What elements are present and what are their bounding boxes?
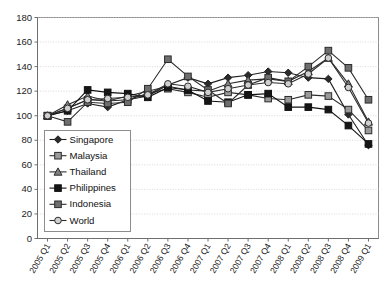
chart-legend: SingaporeMalaysiaThailandPhilippinesIndo… bbox=[45, 131, 131, 232]
data-point bbox=[305, 104, 312, 111]
data-point bbox=[305, 71, 312, 78]
data-point bbox=[365, 96, 372, 103]
data-point bbox=[265, 90, 272, 97]
data-point bbox=[325, 106, 332, 113]
y-tick-label: 20 bbox=[21, 208, 32, 219]
data-point bbox=[325, 47, 332, 54]
data-point bbox=[124, 94, 131, 101]
y-tick-label: 80 bbox=[21, 134, 32, 145]
y-tick-label: 0 bbox=[27, 233, 32, 244]
chart-container: 020406080100120140160180 2005 Q12005 Q22… bbox=[0, 0, 387, 283]
data-point bbox=[104, 95, 111, 102]
data-point bbox=[165, 56, 172, 63]
y-tick-label: 160 bbox=[16, 36, 32, 47]
legend-item-thailand[interactable]: Thailand bbox=[50, 166, 107, 177]
data-point bbox=[84, 87, 91, 94]
data-point bbox=[225, 85, 232, 92]
data-point bbox=[104, 89, 111, 96]
data-point bbox=[365, 141, 372, 148]
data-point bbox=[325, 55, 332, 62]
y-tick-label: 40 bbox=[21, 183, 32, 194]
data-point bbox=[285, 104, 292, 111]
line-chart: 020406080100120140160180 2005 Q12005 Q22… bbox=[0, 0, 387, 283]
y-tick-label: 180 bbox=[16, 12, 32, 23]
data-point bbox=[185, 73, 192, 80]
data-point bbox=[265, 79, 272, 86]
data-point bbox=[245, 82, 252, 89]
legend-item-label: Philippines bbox=[70, 182, 117, 193]
data-point bbox=[84, 96, 91, 103]
y-tick-label: 120 bbox=[16, 85, 32, 96]
data-point bbox=[225, 100, 232, 107]
y-axis-ticks: 020406080100120140160180 bbox=[16, 12, 37, 244]
data-point bbox=[285, 96, 292, 103]
data-point bbox=[245, 92, 252, 99]
data-point bbox=[365, 120, 372, 127]
x-axis-ticks: 2005 Q12005 Q22005 Q32005 Q42006 Q12006 … bbox=[27, 239, 373, 276]
data-point bbox=[165, 81, 172, 88]
data-point bbox=[285, 81, 292, 88]
legend-item-label: Singapore bbox=[70, 134, 114, 145]
data-point bbox=[44, 112, 51, 119]
data-point bbox=[64, 105, 71, 112]
data-point bbox=[64, 119, 71, 126]
data-point bbox=[345, 122, 352, 129]
legend-marker-square-icon bbox=[55, 201, 62, 208]
data-point bbox=[345, 106, 352, 113]
data-point bbox=[145, 92, 152, 99]
y-tick-label: 60 bbox=[21, 159, 32, 170]
data-point bbox=[345, 84, 352, 91]
legend-item-label: Thailand bbox=[70, 166, 107, 177]
data-point bbox=[305, 92, 312, 99]
data-point bbox=[325, 93, 332, 100]
legend-marker-circle-icon bbox=[55, 217, 62, 224]
data-point bbox=[205, 98, 212, 105]
data-point bbox=[185, 83, 192, 90]
data-point bbox=[345, 65, 352, 72]
legend-item-label: Indonesia bbox=[70, 198, 112, 209]
legend-item-label: Malaysia bbox=[70, 150, 109, 161]
data-point bbox=[205, 89, 212, 96]
y-tick-label: 100 bbox=[16, 110, 32, 121]
y-tick-label: 140 bbox=[16, 61, 32, 72]
legend-marker-square-icon bbox=[55, 185, 62, 192]
data-point bbox=[305, 63, 312, 70]
legend-marker-square-icon bbox=[55, 152, 62, 159]
legend-item-label: World bbox=[70, 215, 95, 226]
data-point bbox=[145, 85, 152, 92]
data-point bbox=[365, 127, 372, 134]
